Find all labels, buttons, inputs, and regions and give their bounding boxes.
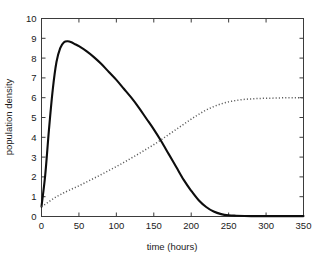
x-tick-label: 0 [39, 220, 44, 231]
y-tick-label: 4 [31, 132, 36, 143]
chart-figure: 050100150200250300350 012345678910 time … [0, 0, 320, 258]
y-axis-title: population density [3, 78, 14, 155]
y-tick-label: 1 [31, 191, 36, 202]
y-tick-label: 6 [31, 92, 36, 103]
x-tick-label: 300 [258, 220, 274, 231]
y-tick-label: 5 [31, 112, 36, 123]
y-tick-label: 2 [31, 171, 36, 182]
x-tick-label: 50 [74, 220, 85, 231]
y-tick-label: 7 [31, 72, 36, 83]
y-tick-label: 3 [31, 152, 36, 163]
x-tick-label: 250 [221, 220, 237, 231]
x-axis-title: time (hours) [147, 241, 198, 252]
population-dynamics-plot: 050100150200250300350 012345678910 time … [0, 0, 320, 258]
y-tick-label: 0 [31, 211, 36, 222]
y-tick-label: 8 [31, 53, 36, 64]
x-tick-label: 350 [296, 220, 312, 231]
y-tick-label: 10 [26, 13, 37, 24]
y-tick-label: 9 [31, 33, 36, 44]
x-tick-label: 100 [108, 220, 124, 231]
x-tick-label: 150 [146, 220, 162, 231]
x-tick-label: 200 [183, 220, 199, 231]
